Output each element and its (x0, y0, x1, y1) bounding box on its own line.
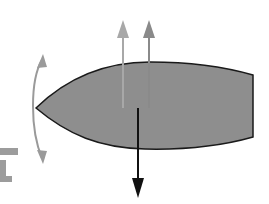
force-diagram (0, 0, 269, 204)
body-shape (36, 62, 253, 149)
partial-symbol (0, 148, 18, 182)
